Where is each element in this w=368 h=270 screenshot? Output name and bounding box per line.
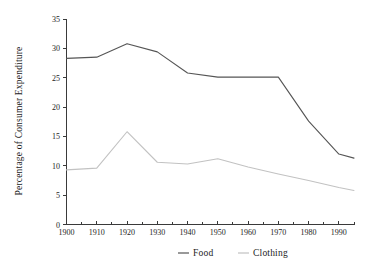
y-tick-group: 05101520253035 — [52, 15, 67, 230]
x-tick-label: 1900 — [59, 228, 75, 237]
chart-plot-area: 05101520253035 1900191019201930194019501… — [0, 0, 368, 270]
y-tick-label: 5 — [56, 191, 60, 200]
x-tick-label: 1930 — [149, 228, 165, 237]
legend-label-food: Food — [193, 248, 213, 258]
y-tick-label: 10 — [52, 162, 60, 171]
x-tick-label: 1960 — [240, 228, 256, 237]
y-tick-label: 20 — [52, 103, 60, 112]
chart-legend: FoodClothing — [178, 248, 288, 258]
legend-label-clothing: Clothing — [253, 248, 288, 258]
x-tick-label: 1910 — [89, 228, 105, 237]
y-tick-label: 25 — [52, 74, 60, 83]
y-tick-label: 30 — [52, 44, 60, 53]
x-tick-label: 1970 — [270, 228, 286, 237]
x-tick-label: 1980 — [301, 228, 317, 237]
series-line-clothing — [67, 132, 355, 191]
y-axis-title: Percentage of Consumer Expenditure — [14, 47, 24, 196]
x-tick-label: 1920 — [119, 228, 135, 237]
data-series-group — [67, 44, 355, 191]
x-tick-label: 1940 — [180, 228, 196, 237]
x-tick-label: 1990 — [331, 228, 347, 237]
x-axis-group: 1900191019201930194019501960197019801990 — [59, 221, 355, 238]
y-tick-label: 15 — [52, 132, 60, 141]
line-chart: 05101520253035 1900191019201930194019501… — [0, 0, 368, 270]
y-tick-label: 35 — [52, 15, 60, 24]
series-line-food — [67, 44, 355, 158]
x-tick-group: 1900191019201930194019501960197019801990 — [59, 221, 355, 238]
x-tick-label: 1950 — [210, 228, 226, 237]
y-axis-group: 05101520253035 — [52, 15, 67, 230]
